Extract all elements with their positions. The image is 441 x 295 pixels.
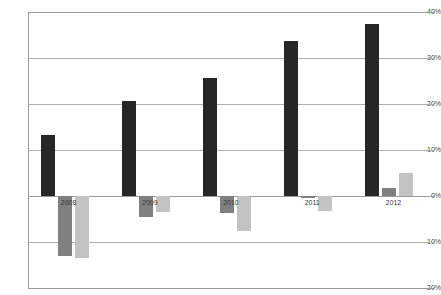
gridline-neg20: [28, 288, 434, 289]
bar-chart: 40% 30% 20% 10% 0% -10% -20% 20082009201…: [0, 0, 441, 295]
x-tick-label-2008: 2008: [28, 199, 109, 207]
x-tick-label-2011: 2011: [272, 199, 353, 207]
gridline-neg10: [28, 242, 434, 243]
x-tick-label-2012: 2012: [353, 199, 434, 207]
bar-2011-series-1: [284, 41, 298, 196]
bar-2011-series-2: [301, 196, 315, 198]
bar-2008-series-1: [41, 135, 55, 196]
bar-2012-series-3: [399, 173, 413, 196]
bar-2009-series-1: [122, 101, 136, 196]
x-tick-label-2010: 2010: [190, 199, 271, 207]
gridline-40: [28, 12, 434, 13]
x-tick-label-2009: 2009: [109, 199, 190, 207]
bar-2010-series-1: [203, 78, 217, 196]
bar-2012-series-2: [382, 188, 396, 196]
bar-2012-series-1: [365, 24, 379, 197]
plot-area: [28, 12, 434, 288]
